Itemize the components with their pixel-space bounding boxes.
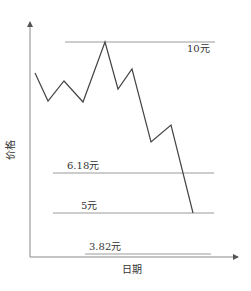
reference-lines: 10元6.18元5元3.82元 [53, 42, 215, 254]
reference-line-label: 10元 [187, 43, 210, 54]
reference-line-label: 3.82元 [89, 241, 121, 252]
y-axis-label: 价格 [4, 140, 16, 160]
fibonacci-retracement-chart: 10元6.18元5元3.82元 价格 日期 [0, 0, 251, 291]
reference-line-label: 5元 [81, 200, 97, 211]
price-line [35, 42, 193, 213]
reference-line-label: 6.18元 [67, 160, 99, 171]
x-axis-label: 日期 [122, 264, 142, 275]
